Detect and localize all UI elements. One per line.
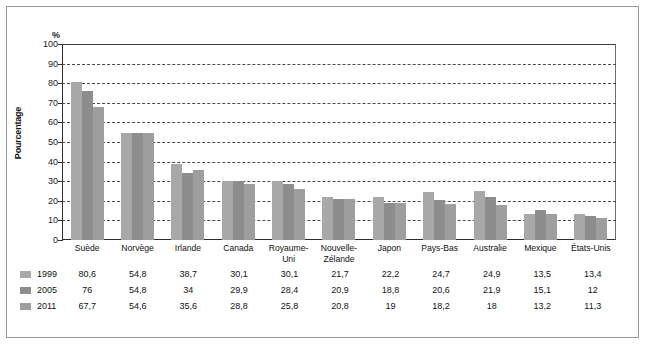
data-value-cell: 13,4 [567, 269, 618, 279]
legend-series-label: 1999 [37, 269, 57, 279]
data-value-cell: 13,2 [517, 301, 568, 311]
data-value-cell: 29,9 [214, 285, 265, 295]
data-value-cell: 24,7 [416, 269, 467, 279]
y-tick-label: 90 [32, 59, 58, 69]
bar [373, 197, 384, 241]
bar-group [364, 44, 414, 240]
data-value-cell: 54,6 [113, 301, 164, 311]
legend-value-cells: 80,654,838,730,130,121,722,224,724,913,5… [62, 269, 618, 279]
legend-row[interactable]: 199980,654,838,730,130,121,722,224,724,9… [18, 266, 618, 282]
bar [222, 181, 233, 240]
data-value-cell: 21,9 [466, 285, 517, 295]
bar [132, 133, 143, 240]
data-value-cell: 28,4 [264, 285, 315, 295]
plot-area [62, 44, 616, 240]
bar [93, 107, 104, 240]
data-value-cell: 30,1 [214, 269, 265, 279]
bar [244, 184, 255, 240]
bar [395, 203, 406, 240]
legend-row[interactable]: 20057654,83429,928,420,918,820,621,915,1… [18, 282, 618, 298]
bar [71, 82, 82, 240]
legend-series-label: 2005 [37, 285, 57, 295]
legend-value-cells: 7654,83429,928,420,918,820,621,915,112 [62, 285, 618, 295]
data-value-cell: 24,9 [466, 269, 517, 279]
bar [445, 204, 456, 240]
legend-series-label: 2011 [37, 301, 56, 311]
bar [535, 210, 546, 240]
data-value-cell: 22,2 [365, 269, 416, 279]
bar [596, 218, 607, 240]
data-value-cell: 21,7 [315, 269, 366, 279]
y-tick-label: 50 [32, 137, 58, 147]
bar [193, 170, 204, 240]
bar [485, 197, 496, 240]
bar [524, 214, 535, 240]
data-value-cell: 20,8 [315, 301, 366, 311]
data-value-cell: 12 [567, 285, 618, 295]
bar [182, 173, 193, 240]
data-value-cell: 15,1 [517, 285, 568, 295]
bar-group [263, 44, 313, 240]
bar [294, 189, 305, 240]
bar [82, 91, 93, 240]
y-tick-mark [58, 240, 63, 241]
data-value-cell: 34 [163, 285, 214, 295]
legend-swatch-icon [20, 271, 31, 278]
y-tick-label: 100 [32, 39, 58, 49]
data-value-cell: 38,7 [163, 269, 214, 279]
legend-data-table: 199980,654,838,730,130,121,722,224,724,9… [18, 266, 618, 314]
data-value-cell: 11,3 [567, 301, 618, 311]
bar [322, 197, 333, 240]
y-tick-label: 10 [32, 215, 58, 225]
bar [272, 181, 283, 240]
bar [283, 184, 294, 240]
bar [474, 191, 485, 240]
bar-group [163, 44, 213, 240]
y-tick-label: 80 [32, 78, 58, 88]
bar-group [314, 44, 364, 240]
legend-value-cells: 67,754,635,628,825,820,81918,21813,211,3 [62, 301, 618, 311]
bar-group [515, 44, 565, 240]
y-axis-title: Pourcentage [13, 93, 23, 173]
y-tick-label: 30 [32, 176, 58, 186]
bar-group [465, 44, 515, 240]
bar [423, 192, 434, 240]
data-value-cell: 18 [466, 301, 517, 311]
data-value-cell: 54,8 [113, 269, 164, 279]
bar-group [415, 44, 465, 240]
legend-key: 1999 [18, 269, 62, 279]
data-value-cell: 19 [365, 301, 416, 311]
chart-figure: % Pourcentage 0102030405060708090100 Suè… [0, 0, 645, 350]
data-value-cell: 30,1 [264, 269, 315, 279]
y-tick-label: 20 [32, 196, 58, 206]
legend-swatch-icon [20, 303, 31, 310]
bar [143, 133, 154, 240]
data-value-cell: 13,5 [517, 269, 568, 279]
data-value-cell: 18,8 [365, 285, 416, 295]
data-value-cell: 25,8 [264, 301, 315, 311]
bar [496, 205, 507, 240]
data-value-cell: 54,8 [113, 285, 164, 295]
data-value-cell: 80,6 [62, 269, 113, 279]
bar [574, 214, 585, 240]
bar [585, 216, 596, 240]
y-tick-label: 60 [32, 117, 58, 127]
bar [171, 164, 182, 240]
legend-row[interactable]: 201167,754,635,628,825,820,81918,21813,2… [18, 298, 618, 314]
data-value-cell: 18,2 [416, 301, 467, 311]
bar [434, 200, 445, 240]
bar [121, 133, 132, 240]
data-value-cell: 67,7 [62, 301, 113, 311]
bar [233, 181, 244, 240]
bar-groups [62, 44, 616, 240]
data-value-cell: 35,6 [163, 301, 214, 311]
data-value-cell: 20,9 [315, 285, 366, 295]
data-value-cell: 20,6 [416, 285, 467, 295]
y-tick-label: 40 [32, 157, 58, 167]
bar-group [112, 44, 162, 240]
data-value-cell: 28,8 [214, 301, 265, 311]
bar [546, 214, 557, 240]
bar [333, 199, 344, 240]
bar-group [566, 44, 616, 240]
legend-key: 2005 [18, 285, 62, 295]
